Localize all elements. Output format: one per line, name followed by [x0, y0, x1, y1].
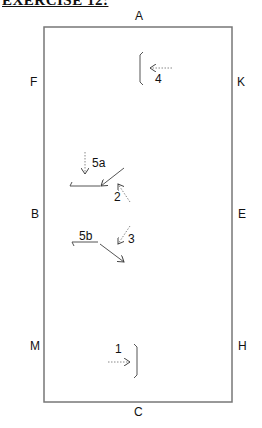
letter-e: E — [238, 208, 246, 220]
letter-f: F — [30, 76, 37, 88]
movement-5b-label: 5b — [79, 230, 92, 242]
letter-k: K — [237, 76, 245, 88]
movement-4-label: 4 — [155, 73, 162, 85]
letter-h: H — [238, 340, 247, 352]
movement-1-path — [108, 344, 137, 378]
letter-a: A — [135, 10, 143, 22]
movement-1-label: 1 — [115, 343, 122, 355]
letter-m: M — [30, 340, 40, 352]
movement-3-label: 3 — [128, 233, 135, 245]
arena-diagram — [0, 0, 262, 428]
letter-b: B — [31, 208, 39, 220]
arena-border — [44, 27, 232, 402]
movement-5b-path — [72, 242, 124, 262]
movement-2-label: 2 — [114, 191, 121, 203]
letter-c: C — [134, 406, 143, 418]
movement-5a-label: 5a — [92, 157, 105, 169]
